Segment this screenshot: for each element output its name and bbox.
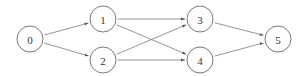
edges-layer: [44, 19, 263, 60]
node-label: 3: [197, 14, 203, 26]
edge-4-to-5: [215, 43, 264, 56]
edge-3-to-5: [215, 23, 264, 36]
node-2: 2: [90, 47, 116, 73]
node-label: 1: [100, 14, 106, 26]
node-label: 0: [27, 34, 33, 46]
node-5: 5: [265, 26, 291, 52]
node-0: 0: [17, 26, 43, 52]
node-3: 3: [187, 6, 213, 32]
node-label: 4: [197, 55, 203, 67]
edge-0-to-2: [44, 43, 88, 56]
edge-0-to-1: [45, 23, 89, 35]
nodes-layer: 012345: [17, 6, 291, 73]
node-label: 2: [100, 55, 106, 67]
node-label: 5: [275, 34, 281, 46]
node-1: 1: [90, 6, 116, 32]
node-4: 4: [187, 47, 213, 73]
directed-graph-diagram: 012345: [0, 0, 306, 76]
